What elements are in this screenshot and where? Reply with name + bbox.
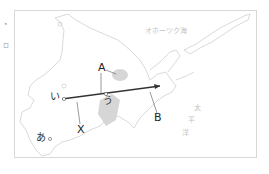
- pacific-label-3: 洋: [182, 130, 189, 137]
- label-a: A: [98, 62, 106, 73]
- label-b: B: [154, 112, 162, 123]
- label-x: X: [77, 124, 85, 135]
- label-a-hiragana: あ: [36, 133, 46, 143]
- okhotsk-sea-label: オホーツク海: [145, 28, 187, 35]
- label-u: う: [103, 96, 113, 106]
- pacific-label-2: 平: [188, 117, 195, 124]
- pacific-label-1: 太: [194, 105, 201, 112]
- hokkaido-map: [0, 0, 269, 174]
- label-i: い: [50, 92, 60, 102]
